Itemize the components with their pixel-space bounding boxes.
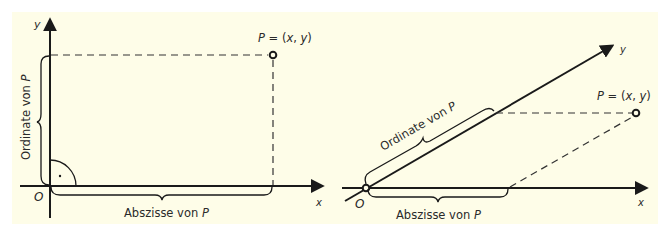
left-y-axis-label: y bbox=[33, 18, 41, 31]
right-abscissa-label: Abszisse von P bbox=[396, 208, 481, 222]
right-y-axis-label: y bbox=[619, 44, 627, 55]
right-diagram: y x O P = (x, y) Ordinate von P Abszisse… bbox=[342, 44, 651, 222]
right-point-label: P = (x, y) bbox=[597, 89, 651, 103]
left-ordinate-label: Ordinate von P bbox=[19, 75, 33, 160]
coordinate-systems-figure: y x O P = (x, y) Ordinate von P Abszisse… bbox=[0, 0, 668, 234]
left-point-p bbox=[270, 52, 277, 59]
right-abscissa-brace bbox=[368, 189, 508, 202]
left-x-axis-label: x bbox=[315, 197, 322, 208]
right-origin-label: O bbox=[355, 197, 364, 211]
right-angle-arc bbox=[50, 160, 76, 186]
right-x-axis-label: x bbox=[637, 197, 644, 208]
left-point-label: P = (x, y) bbox=[258, 31, 312, 45]
right-point-p bbox=[633, 110, 640, 117]
right-angle-dot bbox=[59, 175, 61, 177]
left-abscissa-brace bbox=[51, 187, 272, 200]
right-projection-oblique bbox=[510, 116, 634, 187]
left-origin-label: O bbox=[34, 190, 43, 204]
right-y-axis bbox=[345, 46, 612, 201]
left-ordinate-brace bbox=[37, 56, 49, 185]
left-abscissa-label: Abszisse von P bbox=[124, 206, 209, 220]
left-diagram: y x O P = (x, y) Ordinate von P Abszisse… bbox=[19, 18, 322, 220]
